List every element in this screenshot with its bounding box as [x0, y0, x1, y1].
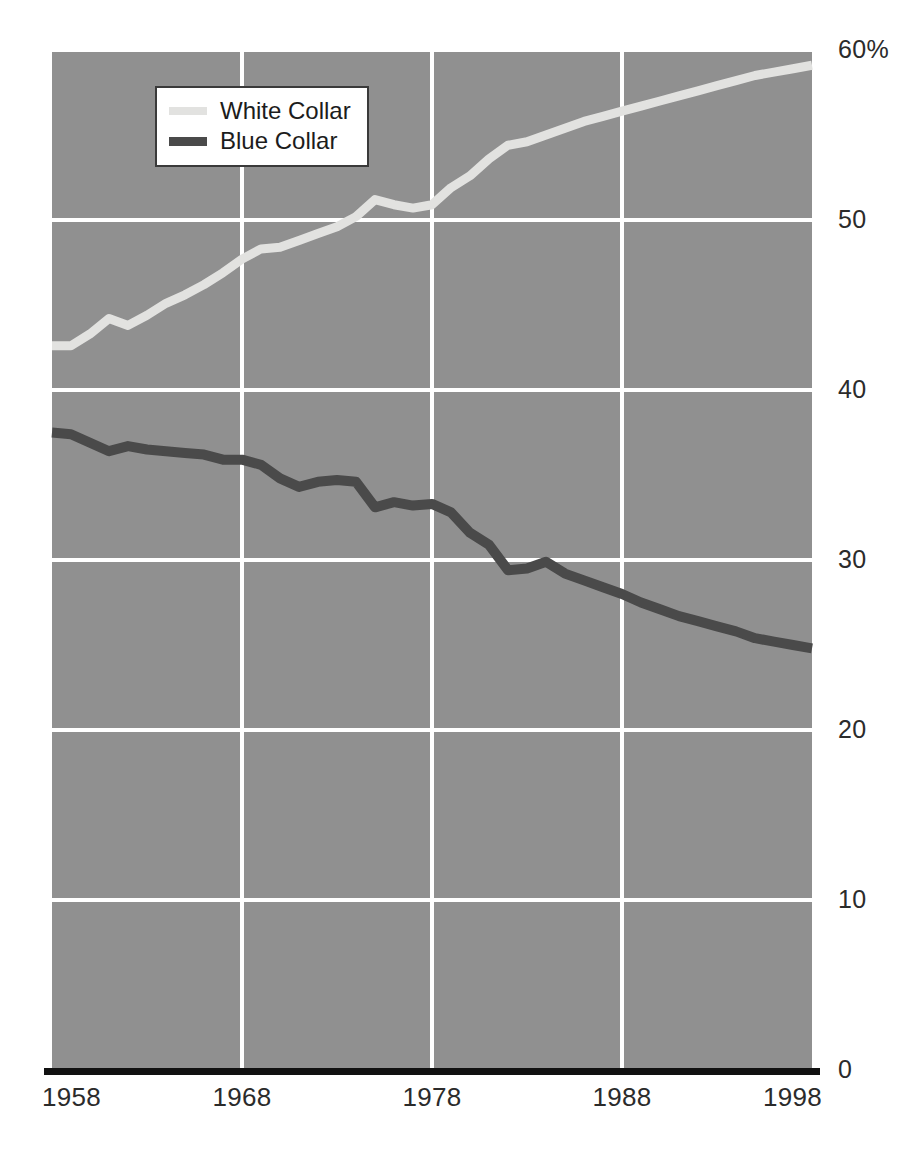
x-tick-label-1958: 1958: [42, 1084, 101, 1110]
y-tick-label-60: 60%: [838, 37, 889, 62]
x-axis-line: [44, 1068, 820, 1075]
y-tick-label-10: 10: [838, 887, 866, 912]
chart-plot-surface: [0, 0, 914, 1157]
employment-share-line-chart: 0102030405060% 19581968197819881998 Whit…: [0, 0, 914, 1157]
legend-swatch-blue-collar: [169, 137, 207, 146]
legend-item-blue-collar: Blue Collar: [169, 126, 351, 156]
x-tick-label-1998: 1998: [763, 1084, 822, 1110]
y-tick-label-50: 50: [838, 207, 866, 232]
x-tick-label-1978: 1978: [403, 1084, 462, 1110]
y-tick-label-40: 40: [838, 377, 866, 402]
x-tick-label-1968: 1968: [213, 1084, 272, 1110]
legend-swatch-white-collar: [169, 107, 207, 115]
y-tick-label-0: 0: [838, 1057, 852, 1082]
chart-legend: White Collar Blue Collar: [155, 86, 369, 167]
legend-item-white-collar: White Collar: [169, 96, 351, 126]
legend-label-blue-collar: Blue Collar: [220, 129, 337, 153]
y-tick-label-30: 30: [838, 547, 866, 572]
legend-label-white-collar: White Collar: [220, 99, 351, 123]
x-tick-label-1988: 1988: [593, 1084, 652, 1110]
y-tick-label-20: 20: [838, 717, 866, 742]
